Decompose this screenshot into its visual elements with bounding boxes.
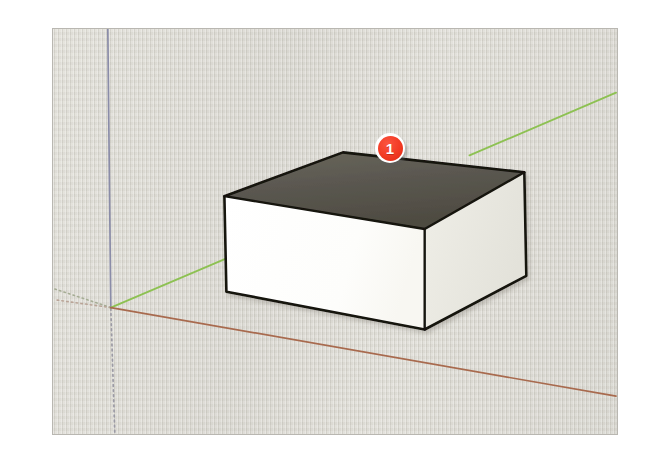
blue-axis-line — [108, 29, 111, 308]
red-axis-line — [111, 308, 616, 397]
green-axis-negative-line — [54, 289, 111, 308]
red-axis-negative-line — [54, 300, 111, 308]
green-axis-line-far — [470, 93, 616, 156]
callout-badge-number: 1 — [375, 133, 405, 163]
3d-scene[interactable] — [53, 29, 617, 434]
blue-axis-negative-line — [111, 309, 115, 433]
box-model[interactable] — [224, 152, 526, 329]
sketchup-viewport[interactable]: 1 — [52, 28, 618, 435]
green-axis-line-near — [111, 256, 233, 308]
callout-badge-1[interactable]: 1 — [375, 133, 405, 163]
scanned-page: 1 — [0, 0, 656, 461]
